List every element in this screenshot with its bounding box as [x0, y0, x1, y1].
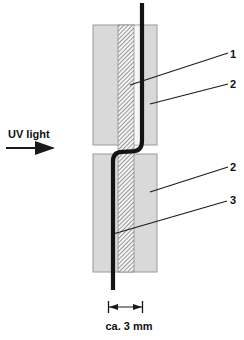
uv-light-label: UV light	[8, 128, 50, 140]
adhesive-layer-hatched	[118, 25, 134, 272]
leader-line-2-top	[150, 84, 228, 104]
callout-1: 1	[230, 48, 236, 60]
figure-canvas: UV light 1 2 2 3 ca. 3 mm	[0, 0, 244, 340]
leader-line-2-bottom	[150, 167, 228, 192]
fiber-groove-strip	[135, 26, 140, 145]
dimension-arrowhead-left	[109, 304, 118, 310]
diagram-svg: UV light 1 2 2 3 ca. 3 mm	[0, 0, 244, 340]
callout-2-top: 2	[230, 78, 236, 90]
dimension-label: ca. 3 mm	[105, 320, 152, 332]
callout-3: 3	[230, 194, 236, 206]
callout-2-bottom: 2	[230, 161, 236, 173]
dimension-arrowhead-right	[133, 304, 142, 310]
dimension-indicator	[109, 301, 143, 313]
